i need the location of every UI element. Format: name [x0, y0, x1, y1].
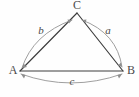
side-label-b: b [38, 24, 44, 36]
triangle-diagram-svg: A B C a b c [0, 0, 139, 97]
side-label-a: a [105, 24, 111, 36]
vertex-label-a: A [9, 63, 18, 77]
triangle-edge-cb [77, 13, 123, 71]
vertex-label-c: C [73, 0, 81, 12]
measure-arc-c-head-start [21, 74, 26, 79]
measure-arc-c-head-end [118, 74, 123, 79]
side-label-c: c [70, 75, 75, 87]
triangle-figure: A B C a b c [0, 0, 139, 97]
vertex-label-b: B [127, 63, 135, 77]
